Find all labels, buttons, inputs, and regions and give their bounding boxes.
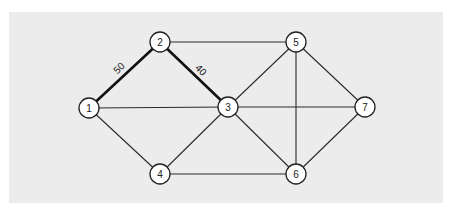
graph-diagram: 5040 1234567: [0, 0, 455, 211]
node-1: 1: [79, 98, 99, 118]
node-label: 2: [157, 37, 163, 48]
edge-6-7: [296, 107, 365, 174]
node-label: 7: [362, 102, 368, 113]
edge-2-3: [160, 42, 228, 107]
node-label: 6: [293, 169, 299, 180]
edge-5-7: [296, 42, 365, 107]
edge-1-2: [89, 42, 160, 108]
node-5: 5: [286, 32, 306, 52]
node-2: 2: [150, 32, 170, 52]
node-label: 1: [86, 103, 92, 114]
node-label: 5: [293, 37, 299, 48]
node-label: 4: [157, 169, 163, 180]
edge-3-5: [228, 42, 296, 107]
node-3: 3: [218, 97, 238, 117]
node-6: 6: [286, 164, 306, 184]
edge-3-6: [228, 107, 296, 174]
node-7: 7: [355, 97, 375, 117]
edge-1-4: [89, 108, 160, 174]
node-4: 4: [150, 164, 170, 184]
edge-3-4: [160, 107, 228, 174]
edge-1-3: [89, 107, 228, 108]
node-label: 3: [225, 102, 231, 113]
